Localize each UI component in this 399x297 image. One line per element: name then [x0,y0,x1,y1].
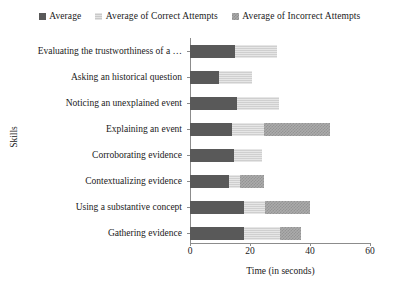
y-axis-tick [187,207,190,208]
y-axis-tick [187,77,190,78]
y-axis-tick [187,51,190,52]
segment-average [190,149,234,162]
x-axis-tick-mark [370,243,371,246]
legend-label: Average of Correct Attempts [106,11,218,21]
legend-label: Average [49,11,81,21]
segment-correct [232,123,264,136]
segment-average [190,97,237,110]
legend-item-correct: Average of Correct Attempts [95,11,218,21]
segment-average [190,45,235,58]
segment-correct [244,227,280,240]
x-axis-tick-mark [190,243,191,246]
x-axis-line [190,243,371,244]
x-axis-title: Time (in seconds) [190,266,371,276]
plot-area [190,38,370,243]
square-light-hatch-icon [95,13,102,20]
legend-item-average: Average [39,11,82,21]
x-axis-tick-mark [250,243,251,246]
segment-incorrect [264,123,330,136]
x-axis-tick-label: 60 [355,246,385,256]
segment-correct [244,201,265,214]
y-category-label: Using a substantive concept [76,201,182,214]
y-axis-category-labels: Evaluating the trustworthiness of a … As… [28,38,186,243]
segment-average [190,175,229,188]
y-category-label: Gathering evidence [108,227,182,240]
bar-group [190,97,279,110]
segment-average [190,227,244,240]
bar-chart: Average Average of Correct Attempts Aver… [0,0,399,297]
segment-average [190,71,219,84]
y-category-label: Corroborating evidence [92,149,182,162]
segment-incorrect [265,201,310,214]
bar-group [190,149,262,162]
segment-correct [237,97,279,110]
square-solid-icon [39,13,46,20]
y-axis-tick [187,181,190,182]
segment-correct [219,71,252,84]
bar-rows [190,38,370,243]
x-axis-tick-mark [310,243,311,246]
segment-correct [234,149,263,162]
y-axis-tick [187,233,190,234]
legend-label: Average of Incorrect Attempts [242,11,360,21]
bar-group [190,227,301,240]
x-axis-tick-label: 40 [295,246,325,256]
bar-group [190,123,330,136]
segment-incorrect [280,227,301,240]
square-cross-hatch-icon [232,13,239,20]
bar-group [190,201,310,214]
segment-correct [235,45,277,58]
bar-group [190,45,277,58]
chart-legend: Average Average of Correct Attempts Aver… [0,11,399,21]
y-axis-tick [187,155,190,156]
x-axis-tick-label: 0 [175,246,205,256]
segment-correct [229,175,240,188]
legend-item-incorrect: Average of Incorrect Attempts [232,11,361,21]
segment-incorrect [240,175,264,188]
y-category-label: Evaluating the trustworthiness of a … [38,45,182,58]
y-axis-tick [187,129,190,130]
bar-group [190,71,252,84]
x-axis-ticks: 0204060 [0,246,399,258]
y-category-label: Noticing an unexplained event [66,97,182,110]
y-category-label: Explaining an event [106,123,182,136]
y-axis-tick [187,103,190,104]
y-category-label: Asking an historical question [71,71,182,84]
y-category-label: Contextualizing evidence [85,175,182,188]
segment-average [190,201,244,214]
x-axis-tick-label: 20 [235,246,265,256]
y-axis-title: Skills [9,107,19,167]
segment-average [190,123,232,136]
bar-group [190,175,264,188]
